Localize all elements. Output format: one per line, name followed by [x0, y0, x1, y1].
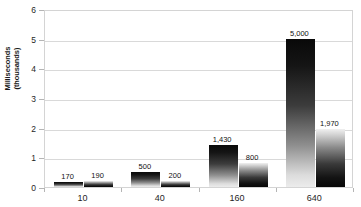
bar-10-series1 — [54, 182, 83, 187]
bar-40-series2 — [161, 181, 190, 187]
y-tick-label: 4 — [18, 65, 36, 74]
x-tick-label-160: 160 — [230, 193, 245, 203]
bar-10-series2 — [84, 181, 113, 187]
bar-value-label: 190 — [91, 172, 104, 180]
y-tick-label: 6 — [18, 6, 36, 15]
bar-value-label: 5,000 — [290, 30, 309, 38]
bar-value-label: 170 — [61, 173, 74, 181]
bar-40-series1 — [131, 172, 160, 187]
x-tick-mark — [353, 188, 354, 192]
bar-value-label: 1,430 — [213, 136, 232, 144]
x-tick-mark — [121, 188, 122, 192]
bar-640-series1 — [286, 39, 315, 187]
bar-value-label: 800 — [246, 154, 259, 162]
bar-value-label: 200 — [169, 172, 182, 180]
x-tick-mark — [199, 188, 200, 192]
y-tick-label: 1 — [18, 154, 36, 163]
y-tick-label: 5 — [18, 35, 36, 44]
x-tick-mark — [276, 188, 277, 192]
bar-160-series1 — [209, 145, 238, 187]
y-tick-label: 3 — [18, 95, 36, 104]
bar-chart: Milliseconds (thousands) 0123456 1701905… — [0, 0, 361, 207]
bar-640-series2 — [316, 129, 345, 187]
x-tick-label-10: 10 — [78, 193, 88, 203]
y-tick-label: 2 — [18, 124, 36, 133]
bar-value-label: 500 — [139, 163, 152, 171]
x-tick-mark — [44, 188, 45, 192]
y-tick-label: 0 — [18, 184, 36, 193]
bar-value-label: 1,970 — [320, 120, 339, 128]
bar-160-series2 — [239, 163, 268, 187]
x-tick-label-640: 640 — [307, 193, 322, 203]
x-tick-label-40: 40 — [155, 193, 165, 203]
